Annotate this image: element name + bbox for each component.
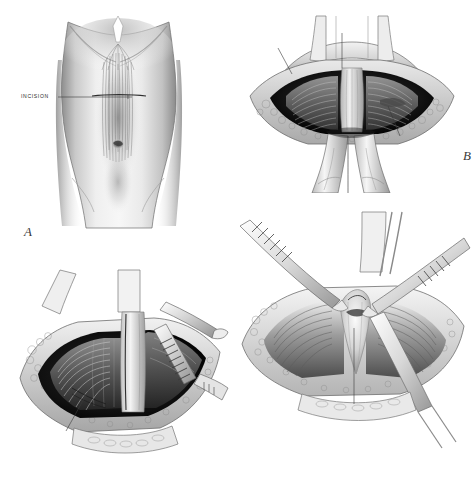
panel-c: DEEP EPIGASTRIC VESSELS C bbox=[14, 268, 246, 468]
label-incision: INCISION bbox=[21, 92, 49, 100]
panel-letter-a: A bbox=[24, 224, 32, 240]
illustration-plate: INCISION A bbox=[0, 0, 474, 491]
panel-b: PYRAMIDALIS M. RECTUS M. TRANSVERSALIS F… bbox=[230, 8, 474, 193]
panel-b-leader-lines bbox=[230, 8, 474, 193]
panel-d: PERITONEUM D bbox=[236, 208, 474, 468]
panel-a-artwork bbox=[0, 0, 237, 245]
incision-leader-line bbox=[58, 95, 150, 101]
panel-a: INCISION A bbox=[0, 0, 237, 245]
panel-c-leader-line bbox=[14, 268, 246, 468]
panel-letter-b: B bbox=[463, 148, 471, 164]
panel-d-leader-line bbox=[236, 208, 474, 468]
